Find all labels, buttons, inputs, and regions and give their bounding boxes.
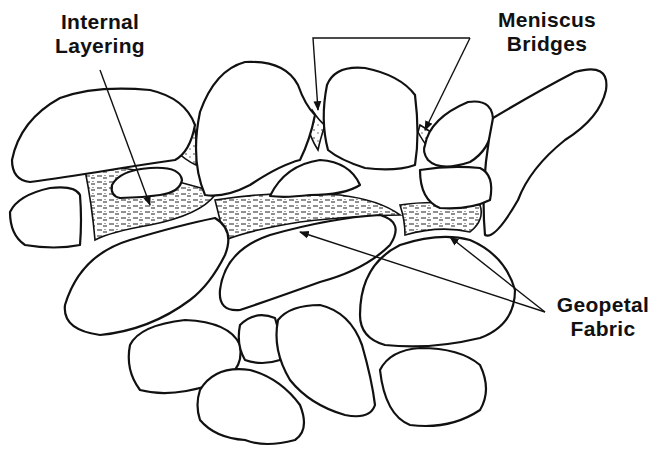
label-line: Internal — [40, 10, 160, 34]
grain — [484, 69, 607, 235]
grain — [65, 218, 229, 335]
grain — [420, 167, 491, 208]
grain — [239, 315, 281, 363]
label-geopetal-fabric: Geopetal Fabric — [548, 293, 658, 341]
label-line: Geopetal — [548, 293, 658, 317]
grains — [10, 62, 606, 444]
label-line: Bridges — [472, 32, 622, 56]
label-line: Meniscus — [472, 8, 622, 32]
grain — [198, 369, 305, 444]
label-line: Fabric — [548, 317, 658, 341]
label-meniscus-bridges: Meniscus Bridges — [472, 8, 622, 56]
grain — [324, 68, 418, 170]
grain — [10, 187, 81, 247]
label-line: Layering — [40, 34, 160, 58]
grain — [360, 237, 515, 347]
grain — [380, 348, 486, 426]
cement-fabric-diagram — [0, 0, 658, 455]
label-internal-layering: Internal Layering — [40, 10, 160, 58]
